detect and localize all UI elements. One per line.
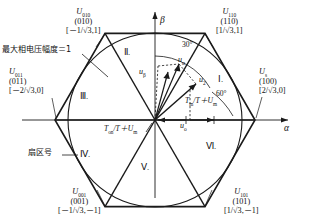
formula-ton: Ton/T＋Um xyxy=(104,125,137,135)
vertex-coord-001: [－1/√3,－1] xyxy=(58,207,101,215)
leader-v100 xyxy=(256,97,262,118)
leader-v101 xyxy=(205,190,212,206)
max-phase-amplitude-label: 最大相电压幅度＝1 xyxy=(2,46,71,54)
vertex-label-100: Us (100) [2/√3,0] xyxy=(259,68,286,95)
vector-ubeta-arrow xyxy=(163,72,169,79)
sector-label-2: Ⅱ. xyxy=(124,48,130,57)
vertex-coord-101: [1/√3,－1] xyxy=(224,207,259,215)
svg-diagram xyxy=(0,0,311,224)
vertex-label-110: U110 (110) [1/√3,1] xyxy=(216,8,243,35)
vertex-label-011: U011 (011) [－2/√3,0] xyxy=(9,68,44,95)
vertex-label-001: U001 (001) [－1/√3,－1] xyxy=(58,188,101,215)
beta-axis-arrow xyxy=(152,12,157,19)
sector-label-1: Ⅰ. xyxy=(218,75,223,84)
sector-label-5: Ⅴ. xyxy=(141,163,149,172)
sector-number-label: 扇区号 xyxy=(28,149,52,157)
figure-canvas: α β U010 (010) [－1/√3,1] U110 (110) [1/√… xyxy=(0,0,311,224)
vector-uo-arrow xyxy=(158,118,165,123)
alpha-axis-label: α xyxy=(284,124,289,134)
vector-label-uo: uo xyxy=(180,122,187,132)
vector-label-u2: u2 xyxy=(199,76,206,86)
alpha-axis-arrow xyxy=(281,117,288,122)
vector-ualpha-line xyxy=(155,64,179,120)
vector-label-ualpha: uα xyxy=(178,56,185,66)
vertex-coord-011: [－2/√3,0] xyxy=(9,87,44,95)
sector-label-6: Ⅵ. xyxy=(206,142,216,151)
vertex-label-010: U010 (010) [－1/√3,1] xyxy=(66,8,101,35)
angle-30-label: 30° xyxy=(182,41,193,49)
angle-60-label: 60° xyxy=(216,90,227,98)
leader-v010 xyxy=(96,34,105,47)
tm-projection-arrow xyxy=(207,118,214,123)
vector-label-ubeta: uβ xyxy=(139,68,146,78)
leader-v011 xyxy=(52,98,56,118)
beta-axis-label: β xyxy=(160,16,165,26)
leader-v110 xyxy=(205,34,213,47)
vertex-coord-010: [－1/√3,1] xyxy=(66,27,101,35)
sector-label-3: Ⅲ. xyxy=(80,92,88,101)
sector-label-4: Ⅳ. xyxy=(80,150,90,159)
vertex-coord-100: [2/√3,0] xyxy=(259,87,286,95)
vertex-coord-110: [1/√3,1] xyxy=(216,27,243,35)
formula-tm: Tm/T＋Um xyxy=(185,97,217,107)
vertex-label-101: U101 (101) [1/√3,－1] xyxy=(224,188,259,215)
